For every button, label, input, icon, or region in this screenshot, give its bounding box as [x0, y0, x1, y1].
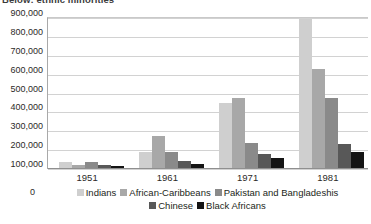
bar[interactable] [338, 144, 351, 168]
bar[interactable] [258, 154, 271, 168]
legend-label: Black Africans [206, 201, 266, 211]
legend-item[interactable]: Black Africans [197, 201, 266, 211]
y-axis-tick-label: 900,000 [10, 9, 43, 18]
y-axis-tick-label: 200,000 [10, 141, 43, 150]
bar[interactable] [152, 136, 165, 168]
legend-swatch-icon [120, 189, 127, 196]
y-axis-labels: 100,000200,000300,000400,000500,000600,0… [0, 13, 46, 168]
x-axis-tick-label: 1971 [208, 172, 288, 183]
legend-row: ChineseBlack Africans [44, 199, 371, 212]
y-axis-tick-label: 600,000 [10, 66, 43, 75]
bar[interactable] [299, 19, 312, 168]
bar[interactable] [165, 152, 178, 168]
y-axis-tick-label: 800,000 [10, 28, 43, 37]
bar[interactable] [351, 152, 364, 168]
legend-label: African-Caribbeans [129, 188, 210, 198]
y-axis-tick-label: 300,000 [10, 122, 43, 131]
bar[interactable] [178, 161, 191, 168]
bar[interactable] [139, 152, 152, 168]
legend-row: IndiansAfrican-CaribbeansPakistan and Ba… [44, 186, 371, 199]
bar[interactable] [325, 98, 338, 168]
bar-group [299, 18, 364, 168]
bar[interactable] [312, 69, 325, 168]
x-axis-tick-label: 1961 [127, 172, 207, 183]
legend-swatch-icon [197, 202, 204, 209]
legend-item[interactable]: Chinese [149, 201, 193, 211]
x-axis-tick-label: 1981 [288, 172, 368, 183]
legend-swatch-icon [77, 189, 84, 196]
legend-item[interactable]: African-Caribbeans [120, 188, 210, 198]
bar[interactable] [245, 143, 258, 168]
legend-label: Chinese [158, 201, 193, 211]
legend-item[interactable]: Indians [77, 188, 117, 198]
x-axis-labels: 1951196119711981 [47, 172, 368, 185]
legend-swatch-icon [215, 189, 222, 196]
bar[interactable] [232, 98, 245, 168]
y-axis-tick-label: 100,000 [10, 160, 43, 169]
bar-group [59, 18, 124, 168]
legend-label: Pakistan and Bangladeshis [224, 188, 339, 198]
chart-title: Below: ethnic minorities [2, 0, 202, 4]
y-axis-tick-label: 400,000 [10, 103, 43, 112]
y-axis-tick-label: 500,000 [10, 85, 43, 94]
x-axis-baseline [48, 168, 368, 169]
legend-label: Indians [86, 188, 117, 198]
plot-area [47, 17, 368, 169]
legend-item[interactable]: Pakistan and Bangladeshis [215, 188, 339, 198]
legend-swatch-icon [149, 202, 156, 209]
gridline [48, 169, 368, 170]
y-axis-tick-label: 700,000 [10, 47, 43, 56]
bars-layer [48, 18, 368, 168]
bar-group [139, 18, 204, 168]
bar[interactable] [271, 158, 284, 168]
x-axis-tick-label: 1951 [47, 172, 127, 183]
y-axis-origin-label: 0 [30, 188, 35, 197]
bar-group [219, 18, 284, 168]
bar[interactable] [219, 103, 232, 168]
chart-legend: IndiansAfrican-CaribbeansPakistan and Ba… [44, 186, 371, 212]
